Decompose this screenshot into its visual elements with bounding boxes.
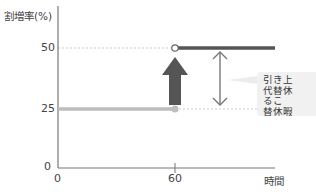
series-25-endpoint — [172, 106, 179, 113]
callout-line-1: 引き上 — [263, 75, 316, 86]
callout-line-3: るこ — [263, 96, 316, 107]
callout-box: 引き上 代替休 るこ 替休暇 — [257, 72, 316, 116]
up-arrow-icon — [162, 57, 188, 105]
callout-line-4: 替休暇 — [263, 107, 316, 118]
callout-pointer — [228, 76, 258, 84]
series-50-open-point — [172, 45, 178, 51]
